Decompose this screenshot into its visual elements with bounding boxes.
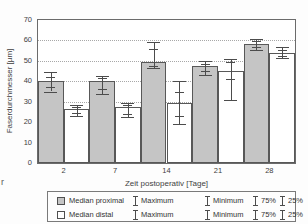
whisker-cap-max bbox=[199, 61, 212, 62]
whisker-cap-p75 bbox=[123, 105, 132, 106]
y-tick-10: 10 bbox=[0, 139, 32, 147]
legend-box: Median proximal Maximum Minimum 75% 25% … bbox=[47, 191, 296, 222]
whisker-cap-p75 bbox=[252, 41, 261, 42]
bar-distal-day28 bbox=[269, 53, 295, 163]
whisker-cap-p75 bbox=[278, 50, 287, 51]
legend-label-maximum: Maximum bbox=[141, 208, 174, 222]
errorbar-icon bbox=[252, 196, 259, 206]
whisker-cap-max bbox=[44, 72, 57, 73]
proximal-swatch bbox=[57, 197, 65, 205]
bar-proximal-day28 bbox=[244, 44, 270, 164]
x-tick-14: 14 bbox=[155, 167, 179, 175]
y-tick-60: 60 bbox=[0, 36, 32, 44]
whisker-cap-min bbox=[96, 94, 109, 95]
whisker-cap-min bbox=[121, 117, 134, 118]
errorbar-icon bbox=[132, 196, 139, 206]
x-tick-28: 28 bbox=[257, 167, 281, 175]
whisker-cap-p25 bbox=[72, 113, 81, 114]
legend-label-75: 75% bbox=[261, 194, 276, 208]
whisker-cap-min bbox=[147, 68, 160, 69]
whisker-cap-p25 bbox=[278, 56, 287, 57]
legend-label-maximum: Maximum bbox=[141, 194, 174, 208]
errorbar-icon bbox=[252, 210, 259, 220]
whisker-cap-min bbox=[276, 58, 289, 59]
y-tick-50: 50 bbox=[0, 57, 32, 65]
whisker-proximal-day14 bbox=[154, 42, 155, 68]
whisker-cap-p75 bbox=[46, 77, 55, 78]
whisker-cap-p25 bbox=[201, 71, 210, 72]
errorbar-icon bbox=[279, 210, 286, 220]
bar-proximal-day21 bbox=[192, 66, 218, 163]
figure-fiber-diameter-chart: r Faserdurchmesser [µm] 010203040506070 … bbox=[0, 0, 308, 224]
whisker-cap-max bbox=[173, 81, 186, 82]
cut-off-page-text: r bbox=[1, 177, 4, 187]
errorbar-icon bbox=[204, 196, 211, 206]
bar-proximal-day14 bbox=[141, 62, 167, 163]
bar-proximal-day2 bbox=[38, 81, 64, 163]
whisker-cap-p25 bbox=[123, 114, 132, 115]
y-tick-0: 0 bbox=[0, 159, 32, 167]
legend-label-25: 25% bbox=[288, 208, 303, 222]
y-tick-20: 20 bbox=[0, 118, 32, 126]
whisker-cap-p25 bbox=[252, 47, 261, 48]
legend-row-proximal: Median proximal Maximum Minimum 75% 25% bbox=[48, 194, 295, 208]
whisker-cap-max bbox=[276, 47, 289, 48]
y-tick-30: 30 bbox=[0, 98, 32, 106]
plot-area bbox=[37, 19, 296, 164]
legend-label-distal: Median distal bbox=[69, 208, 113, 222]
x-tick-21: 21 bbox=[206, 167, 230, 175]
whisker-cap-p75 bbox=[201, 64, 210, 65]
whisker-cap-min bbox=[250, 50, 263, 51]
whisker-cap-p25 bbox=[98, 89, 107, 90]
distal-swatch bbox=[57, 211, 65, 219]
whisker-cap-max bbox=[121, 103, 134, 104]
legend-label-minimum: Minimum bbox=[213, 194, 243, 208]
whisker-cap-min bbox=[70, 116, 83, 117]
whisker-cap-p25 bbox=[46, 87, 55, 88]
x-tick-7: 7 bbox=[103, 167, 127, 175]
legend-label-25: 25% bbox=[288, 194, 303, 208]
whisker-cap-p75 bbox=[98, 78, 107, 79]
whisker-distal-day14 bbox=[179, 81, 180, 124]
errorbar-icon bbox=[132, 210, 139, 220]
x-tick-2: 2 bbox=[52, 167, 76, 175]
whisker-cap-max bbox=[96, 76, 109, 77]
whisker-cap-p25 bbox=[149, 66, 158, 67]
errorbar-icon bbox=[279, 196, 286, 206]
whisker-cap-min bbox=[224, 100, 237, 101]
legend-label-minimum: Minimum bbox=[213, 208, 243, 222]
whisker-cap-min bbox=[173, 124, 186, 125]
legend-row-distal: Median distal Maximum Minimum 75% 25% bbox=[48, 208, 295, 222]
whisker-cap-p25 bbox=[175, 116, 184, 117]
whisker-cap-max bbox=[250, 39, 263, 40]
whisker-cap-max bbox=[147, 42, 160, 43]
whisker-cap-p75 bbox=[175, 92, 184, 93]
whisker-cap-p25 bbox=[226, 79, 235, 80]
whisker-cap-min bbox=[199, 75, 212, 76]
whisker-cap-p75 bbox=[72, 107, 81, 108]
whisker-cap-max bbox=[70, 105, 83, 106]
whisker-proximal-day2 bbox=[51, 72, 52, 91]
whisker-cap-p75 bbox=[149, 49, 158, 50]
whisker-cap-max bbox=[224, 59, 237, 60]
errorbar-icon bbox=[204, 210, 211, 220]
whisker-cap-min bbox=[44, 92, 57, 93]
x-axis-title: Zeit postoperativ [Tage] bbox=[37, 179, 296, 188]
y-tick-70: 70 bbox=[0, 16, 32, 24]
legend-label-75: 75% bbox=[261, 208, 276, 222]
legend-label-proximal: Median proximal bbox=[69, 194, 124, 208]
y-tick-40: 40 bbox=[0, 77, 32, 85]
whisker-cap-p75 bbox=[226, 62, 235, 63]
